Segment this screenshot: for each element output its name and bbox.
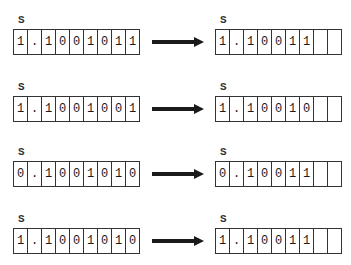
input-register: S 0 . 1 0 0 1 0 1 0 bbox=[13, 161, 140, 187]
bit-cell: 0 bbox=[272, 162, 286, 186]
bit-cell: 0 bbox=[272, 30, 286, 54]
bit-cell: 1 bbox=[300, 30, 314, 54]
bit-cell: 1 bbox=[42, 229, 56, 253]
bit-cell: 0 bbox=[70, 97, 84, 121]
bit-cell: 0 bbox=[258, 30, 272, 54]
right-arrow-icon bbox=[152, 236, 204, 246]
bit-cell: . bbox=[230, 162, 244, 186]
input-register: S 1 . 1 0 0 1 0 0 1 bbox=[13, 96, 140, 122]
bit-cells: 1 . 1 0 0 1 0 0 1 bbox=[13, 96, 140, 122]
bit-cell: . bbox=[230, 229, 244, 253]
bit-cell: . bbox=[28, 162, 42, 186]
bit-cell bbox=[328, 162, 341, 186]
rounding-example-1: S 1 . 1 0 0 1 0 1 1 S 1 . 1 0 0 1 1 bbox=[0, 29, 351, 69]
output-register: S 1 . 1 0 0 1 0 bbox=[215, 96, 342, 122]
bit-cells: 1 . 1 0 0 1 1 bbox=[215, 228, 342, 254]
register-label: S bbox=[220, 81, 227, 93]
bit-cell bbox=[328, 30, 341, 54]
bit-cells: 1 . 1 0 0 1 0 1 0 bbox=[13, 228, 140, 254]
register-label: S bbox=[220, 146, 227, 158]
bit-cell: 1 bbox=[42, 162, 56, 186]
bit-cell: 0 bbox=[70, 162, 84, 186]
bit-cell: 0 bbox=[70, 229, 84, 253]
bit-cell: 1 bbox=[216, 97, 230, 121]
bit-cell: 1 bbox=[14, 97, 28, 121]
bit-cell: 1 bbox=[286, 229, 300, 253]
bit-cells: 1 . 1 0 0 1 0 1 1 bbox=[13, 29, 140, 55]
bit-cell: 1 bbox=[42, 30, 56, 54]
bit-cell: 1 bbox=[112, 162, 126, 186]
bit-cell: 1 bbox=[286, 162, 300, 186]
bit-cell: 1 bbox=[14, 30, 28, 54]
bit-cell: 1 bbox=[244, 162, 258, 186]
bit-cell bbox=[328, 229, 341, 253]
bit-cell: 1 bbox=[244, 229, 258, 253]
bit-cell: 0 bbox=[56, 97, 70, 121]
bit-cell: 1 bbox=[244, 30, 258, 54]
bit-cell: 0 bbox=[258, 229, 272, 253]
bit-cell: 0 bbox=[70, 30, 84, 54]
bit-cell: 0 bbox=[126, 229, 139, 253]
bit-cell: 0 bbox=[272, 229, 286, 253]
bit-cell: 1 bbox=[300, 162, 314, 186]
bit-cell: . bbox=[230, 30, 244, 54]
bit-cell: 1 bbox=[42, 97, 56, 121]
bit-cell: 0 bbox=[258, 97, 272, 121]
output-register: S 0 . 1 0 0 1 1 bbox=[215, 161, 342, 187]
bit-cell: 0 bbox=[216, 162, 230, 186]
bit-cell: 1 bbox=[84, 97, 98, 121]
bit-cells: 0 . 1 0 0 1 0 1 0 bbox=[13, 161, 140, 187]
bit-cell: 0 bbox=[126, 162, 139, 186]
right-arrow-icon bbox=[152, 37, 204, 47]
bit-cell: 0 bbox=[98, 229, 112, 253]
bit-cell: 0 bbox=[112, 97, 126, 121]
output-register: S 1 . 1 0 0 1 1 bbox=[215, 29, 342, 55]
bit-cell: 1 bbox=[286, 30, 300, 54]
right-arrow-icon bbox=[152, 104, 204, 114]
bit-cell: 1 bbox=[244, 97, 258, 121]
bit-cell: 0 bbox=[98, 97, 112, 121]
bit-cell: 1 bbox=[84, 162, 98, 186]
bit-cell bbox=[314, 162, 328, 186]
bit-cell: 1 bbox=[126, 97, 139, 121]
bit-cell: 1 bbox=[14, 229, 28, 253]
register-label: S bbox=[220, 14, 227, 26]
input-register: S 1 . 1 0 0 1 0 1 1 bbox=[13, 29, 140, 55]
bit-cells: 0 . 1 0 0 1 1 bbox=[215, 161, 342, 187]
register-label: S bbox=[18, 213, 25, 225]
bit-cell: 1 bbox=[216, 30, 230, 54]
bit-cell: 1 bbox=[300, 229, 314, 253]
bit-cell: 0 bbox=[56, 229, 70, 253]
bit-cells: 1 . 1 0 0 1 0 bbox=[215, 96, 342, 122]
bit-cell: 1 bbox=[126, 30, 139, 54]
bit-cell bbox=[328, 97, 341, 121]
bit-cell: 0 bbox=[14, 162, 28, 186]
bit-cell bbox=[314, 97, 328, 121]
bit-cell: 0 bbox=[272, 97, 286, 121]
bit-cell: . bbox=[28, 97, 42, 121]
bit-cell: . bbox=[28, 229, 42, 253]
bit-cell: 1 bbox=[84, 229, 98, 253]
bit-cell: 0 bbox=[258, 162, 272, 186]
input-register: S 1 . 1 0 0 1 0 1 0 bbox=[13, 228, 140, 254]
bit-cell bbox=[314, 30, 328, 54]
bit-cells: 1 . 1 0 0 1 1 bbox=[215, 29, 342, 55]
rounding-example-4: S 1 . 1 0 0 1 0 1 0 S 1 . 1 0 0 1 1 bbox=[0, 228, 351, 265]
register-label: S bbox=[220, 213, 227, 225]
bit-cell: 0 bbox=[56, 162, 70, 186]
bit-cell: 1 bbox=[286, 97, 300, 121]
register-label: S bbox=[18, 14, 25, 26]
bit-cell bbox=[314, 229, 328, 253]
right-arrow-icon bbox=[152, 169, 204, 179]
bit-cell: 0 bbox=[56, 30, 70, 54]
bit-cell: 1 bbox=[112, 30, 126, 54]
bit-cell: 0 bbox=[98, 30, 112, 54]
bit-cell: . bbox=[28, 30, 42, 54]
bit-cell: 0 bbox=[98, 162, 112, 186]
bit-cell: 0 bbox=[300, 97, 314, 121]
output-register: S 1 . 1 0 0 1 1 bbox=[215, 228, 342, 254]
bit-cell: 1 bbox=[84, 30, 98, 54]
rounding-example-3: S 0 . 1 0 0 1 0 1 0 S 0 . 1 0 0 1 1 bbox=[0, 161, 351, 201]
bit-cell: 1 bbox=[112, 229, 126, 253]
rounding-example-2: S 1 . 1 0 0 1 0 0 1 S 1 . 1 0 0 1 0 bbox=[0, 96, 351, 136]
